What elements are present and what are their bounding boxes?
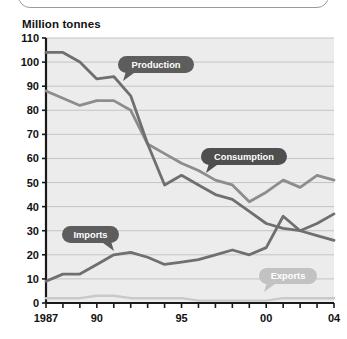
line-chart: 0102030405060708090100110 198790950004 P… <box>0 0 347 339</box>
y-tick-label: 70 <box>27 128 39 140</box>
y-tick-label: 10 <box>27 273 39 285</box>
y-tick-label: 30 <box>27 225 39 237</box>
y-tick-label: 80 <box>27 104 39 116</box>
y-tick-label: 50 <box>27 177 39 189</box>
x-tick-label: 04 <box>328 312 341 324</box>
plot-background <box>46 38 334 303</box>
x-tick-label: 00 <box>260 312 272 324</box>
y-tick-label: 60 <box>27 152 39 164</box>
x-tick-label: 95 <box>175 312 187 324</box>
y-axis-tick-labels: 0102030405060708090100110 <box>21 32 39 309</box>
callout-label: Production <box>131 60 180 70</box>
y-tick-label: 40 <box>27 201 39 213</box>
callout-label: Imports <box>73 230 107 240</box>
y-tick-label: 20 <box>27 249 39 261</box>
y-tick-label: 0 <box>33 297 39 309</box>
callout-label: Exports <box>271 271 306 281</box>
y-tick-label: 90 <box>27 80 39 92</box>
y-tick-label: 100 <box>21 56 39 68</box>
chart-page: Million tonnes 0102030405060708090100110… <box>0 0 347 339</box>
chart-plot-area: 0102030405060708090100110 198790950004 P… <box>0 0 347 339</box>
x-tick-label: 90 <box>91 312 103 324</box>
callout-label: Consumption <box>214 152 274 162</box>
x-axis-tick-labels: 198790950004 <box>34 312 341 324</box>
x-tick-label: 1987 <box>34 312 58 324</box>
y-tick-label: 110 <box>21 32 39 44</box>
